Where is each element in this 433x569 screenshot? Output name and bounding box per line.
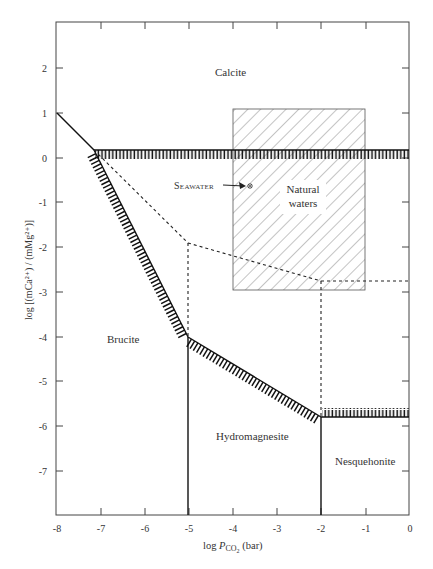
region-hydromagnesite: Hydromagnesite	[216, 430, 289, 442]
seawater-label: Seawater	[174, 180, 214, 191]
svg-text:-1: -1	[362, 523, 370, 534]
svg-text:-2: -2	[39, 242, 47, 253]
y-tick-labels: 2 1 0 -1 -2 -3 -4 -5 -6 -7	[39, 63, 47, 477]
svg-text:0: 0	[408, 523, 413, 534]
region-natural-waters-line2: waters	[289, 197, 318, 209]
svg-text:-3: -3	[39, 287, 47, 298]
svg-text:-8: -8	[53, 523, 61, 534]
svg-text:-7: -7	[39, 466, 47, 477]
svg-text:-6: -6	[141, 523, 149, 534]
svg-text:-5: -5	[185, 523, 193, 534]
svg-text:-2: -2	[317, 523, 325, 534]
region-nesquehonite: Nesquehonite	[335, 455, 396, 467]
svg-text:0: 0	[42, 153, 47, 164]
region-calcite: Calcite	[215, 66, 246, 78]
hydromagnesite-boundary-hatch	[187, 339, 319, 423]
calcite-boundary-hatch	[95, 150, 409, 159]
svg-text:-4: -4	[229, 523, 237, 534]
svg-text:-6: -6	[39, 421, 47, 432]
svg-text:1: 1	[42, 108, 47, 119]
svg-text:-5: -5	[39, 376, 47, 387]
brucite-boundary-hatch	[88, 154, 186, 338]
x-tick-labels: -8 -7 -6 -5 -4 -3 -2 -1 0	[53, 523, 413, 534]
svg-text:2: 2	[42, 63, 47, 74]
region-brucite: Brucite	[107, 333, 139, 345]
svg-text:-1: -1	[39, 197, 47, 208]
x-axis-title: log PCO2 (bar)	[203, 540, 263, 554]
y-axis-title: log [(mCa²⁺) / (mMg²⁺)]	[23, 220, 35, 320]
svg-text:-7: -7	[97, 523, 105, 534]
region-natural-waters-line1: Natural	[287, 183, 320, 195]
svg-text:-3: -3	[273, 523, 281, 534]
nesquehonite-boundary-hatch	[322, 408, 409, 417]
svg-text:-4: -4	[39, 332, 47, 343]
stability-diagram: Seawater Calcite Brucite Hydromagnesite …	[0, 0, 433, 569]
